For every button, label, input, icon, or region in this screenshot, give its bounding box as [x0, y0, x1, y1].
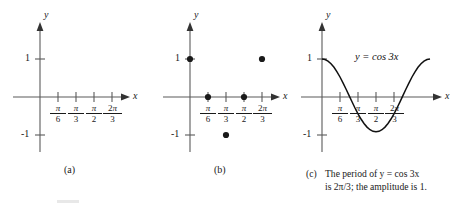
panel-c-caption-line-2: is 2π/3; the amplitude is 1.: [325, 181, 464, 194]
y-axis-label: y: [194, 9, 198, 20]
y-tick-label-neg1: -1: [171, 128, 179, 139]
y-axis-label: y: [326, 9, 330, 20]
y-tick-label-1: 1: [307, 52, 312, 63]
y-tick-label-1: 1: [25, 52, 30, 63]
figure-root: y x 1 -1 π 6 π 3 π 2 2π 3 (a): [0, 0, 465, 207]
panel-c-caption-block: (c) The period of y = cos 3x is 2π/3; th…: [306, 168, 464, 193]
x-tick-label-2pi-3: 2π 3: [253, 104, 272, 124]
x-tick-label-pi-3: π 3: [68, 104, 84, 124]
x-tick-label-pi-6: π 6: [200, 104, 216, 124]
y-axis-arrowhead: [37, 22, 44, 31]
y-tick-label-1: 1: [175, 52, 180, 63]
x-tick-label-pi-2: π 2: [236, 104, 252, 124]
data-point-4: [259, 56, 265, 62]
x-axis-label: x: [133, 90, 137, 101]
y-tick-label-neg1: -1: [303, 128, 311, 139]
x-tick-label-2pi-3: 2π 3: [103, 104, 122, 124]
x-axis-arrowhead: [271, 94, 280, 101]
data-point-1: [205, 94, 211, 100]
panel-c-caption-tag: (c): [306, 168, 317, 181]
data-point-3: [241, 94, 247, 100]
y-axis-arrowhead: [319, 22, 326, 31]
y-tick-label-neg1: -1: [21, 128, 29, 139]
panel-b: y x 1 -1 π 6 π 3 π 2 2π 3 (b): [150, 0, 300, 207]
x-axis-arrowhead: [121, 94, 130, 101]
panel-b-caption: (b): [214, 164, 226, 175]
x-axis-label: x: [283, 90, 287, 101]
y-axis-label: y: [44, 9, 48, 20]
x-tick-label-pi-3: π 3: [218, 104, 234, 124]
x-tick-label-pi-2: π 2: [368, 104, 384, 124]
bottom-rule-mark: [57, 200, 79, 203]
x-axis-label: x: [445, 90, 449, 101]
x-axis-arrowhead: [433, 94, 442, 101]
function-label: y = cos 3x: [355, 51, 399, 62]
panel-a-caption: (a): [64, 164, 75, 175]
x-tick-label-2pi-3: 2π 3: [385, 104, 404, 124]
x-tick-label-pi-3: π 3: [350, 104, 366, 124]
x-tick-label-pi-6: π 6: [50, 104, 66, 124]
data-point-2: [223, 132, 229, 138]
panel-c-caption-line-1: The period of y = cos 3x: [325, 168, 464, 181]
panel-a: y x 1 -1 π 6 π 3 π 2 2π 3 (a): [0, 0, 150, 207]
x-tick-label-pi-2: π 2: [86, 104, 102, 124]
data-point-0: [187, 56, 193, 62]
x-tick-label-pi-6: π 6: [332, 104, 348, 124]
y-axis-arrowhead: [187, 22, 194, 31]
